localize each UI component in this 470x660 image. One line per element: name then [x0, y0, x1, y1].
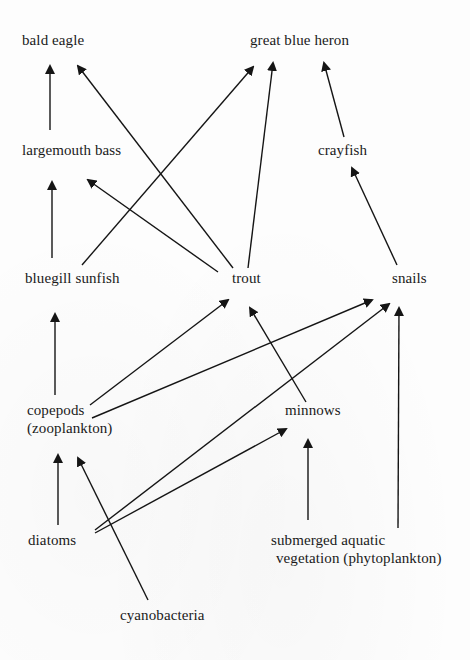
node-cyanobacteria: cyanobacteria — [120, 606, 205, 624]
node-label-text: copepods — [27, 401, 112, 419]
node-minnows: minnows — [285, 401, 341, 419]
arrow-diatoms-to-minnows — [95, 429, 286, 533]
node-label-text: bald eagle — [22, 32, 84, 48]
food-web-diagram: bald eagle great blue heron largemouth b… — [0, 0, 470, 660]
arrow-diatoms-to-snails — [95, 304, 389, 530]
node-label-text: submerged aquatic — [271, 531, 441, 549]
arrow-trout-to-largemouth-bass — [88, 180, 218, 272]
node-label-text: diatoms — [28, 532, 76, 548]
node-bald-eagle: bald eagle — [22, 31, 84, 49]
node-diatoms: diatoms — [28, 531, 76, 549]
node-label-text: crayfish — [318, 142, 367, 158]
node-label-text: minnows — [285, 402, 341, 418]
node-label-text: bluegill sunfish — [25, 270, 120, 286]
arrow-minnows-to-trout — [250, 308, 306, 402]
arrow-cyanobacteria-to-copepods — [78, 458, 148, 600]
node-label-text: cyanobacteria — [120, 607, 205, 623]
node-label-text: snails — [392, 270, 427, 286]
arrow-trout-to-bald-eagle — [78, 66, 233, 268]
node-largemouth-bass: largemouth bass — [22, 141, 121, 159]
arrow-trout-to-great-blue-heron — [248, 63, 273, 268]
node-label-text: trout — [232, 270, 261, 286]
node-label-subtext: (zooplankton) — [27, 419, 112, 437]
node-copepods: copepods (zooplankton) — [27, 401, 112, 437]
arrow-submerged-aquatic-vegetation-to-snails — [398, 308, 399, 528]
node-label-text: largemouth bass — [22, 142, 121, 158]
node-snails: snails — [392, 269, 427, 287]
node-bluegill-sunfish: bluegill sunfish — [25, 269, 120, 287]
arrow-snails-to-crayfish — [352, 168, 397, 265]
node-label-text: great blue heron — [250, 32, 349, 48]
arrow-bluegill-sunfish-to-great-blue-heron — [82, 67, 253, 265]
node-great-blue-heron: great blue heron — [250, 31, 349, 49]
node-label-subtext: vegetation (phytoplankton) — [271, 549, 441, 567]
node-submerged-aquatic-vegetation: submerged aquatic vegetation (phytoplank… — [271, 531, 441, 567]
arrow-crayfish-to-great-blue-heron — [324, 63, 344, 137]
node-trout: trout — [232, 269, 261, 287]
node-crayfish: crayfish — [318, 141, 367, 159]
